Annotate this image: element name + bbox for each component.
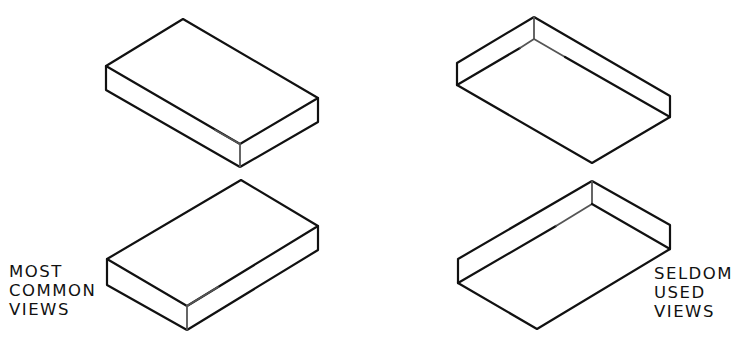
label-line: COMMON [9,281,96,300]
box-view-top-right [457,17,670,163]
most-common-views-label: MOST COMMON VIEWS [9,262,96,319]
label-line: MOST [9,262,96,281]
box-view-bottom-left [107,180,318,330]
box-view-top-left [106,19,318,167]
isometric-views-drawing [0,0,738,341]
seldom-used-views-label: SELDOM USED VIEWS [654,264,733,321]
box-view-bottom-right [458,181,670,329]
label-line: USED [654,283,733,302]
label-line: VIEWS [654,302,733,321]
label-line: VIEWS [9,300,96,319]
label-line: SELDOM [654,264,733,283]
